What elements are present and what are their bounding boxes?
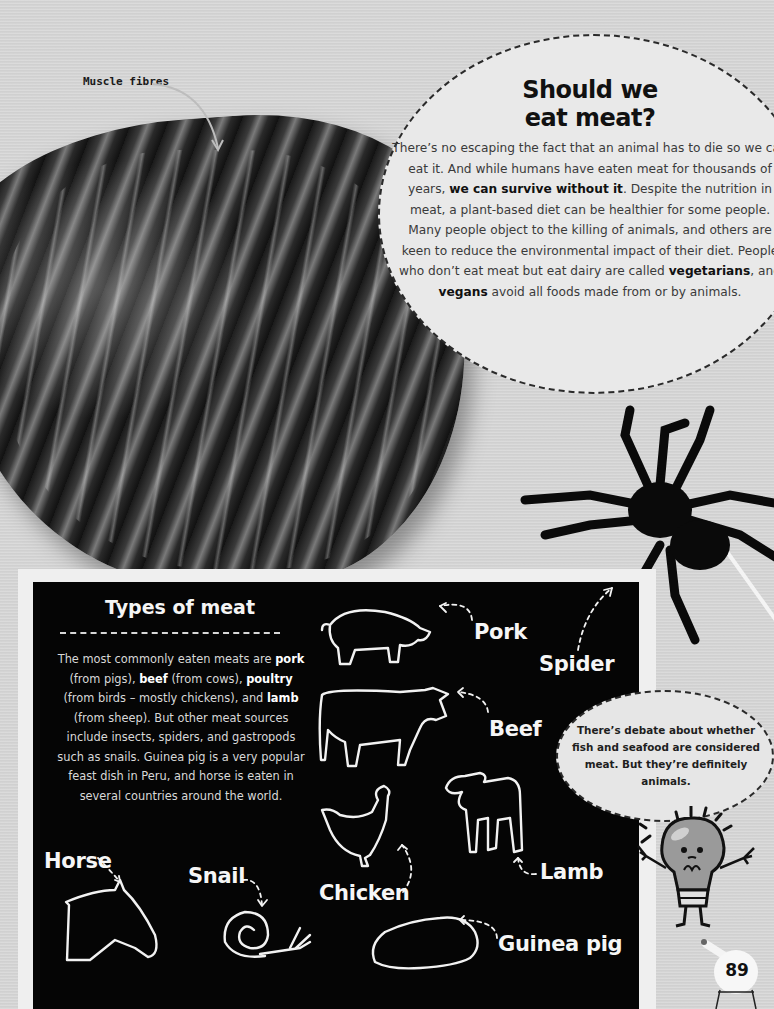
speech-bubble-text: There’s debate about whether fish and se… xyxy=(566,722,766,790)
bold-term: pork xyxy=(275,652,304,666)
text-run: avoid all foods made from or by animals. xyxy=(488,285,742,299)
bold-term: vegans xyxy=(439,285,488,299)
label-beef: Beef xyxy=(489,717,541,741)
lightbulb-mascot-icon xyxy=(636,806,766,936)
feature-body: There’s no escaping the fact that an ani… xyxy=(392,138,774,302)
bold-term: we can survive without it xyxy=(449,182,623,196)
label-spider: Spider xyxy=(539,652,614,676)
label-lamb: Lamb xyxy=(540,860,603,884)
bold-term: poultry xyxy=(246,672,292,686)
text-run: (from pigs), xyxy=(69,672,139,686)
bold-term: lamb xyxy=(267,691,299,705)
text-run: , and xyxy=(750,264,774,278)
page-number: 89 xyxy=(713,960,761,980)
feature-title-line2: eat meat? xyxy=(460,104,720,132)
feature-title: Should we eat meat? xyxy=(460,76,720,132)
label-snail: Snail xyxy=(188,864,245,888)
feature-title-line1: Should we xyxy=(460,76,720,104)
bold-term: beef xyxy=(139,672,168,686)
board-title: Types of meat xyxy=(60,596,300,618)
bold-term: vegetarians xyxy=(669,264,751,278)
text-run: (from sheep). But other meat sources inc… xyxy=(57,711,304,803)
label-chicken: Chicken xyxy=(319,881,410,905)
muscle-arrow-icon xyxy=(150,80,240,155)
text-run: (from cows), xyxy=(168,672,246,686)
label-horse: Horse xyxy=(44,849,112,873)
board-divider xyxy=(60,632,280,634)
label-pork: Pork xyxy=(474,620,527,644)
board-body: The most commonly eaten meats are pork (… xyxy=(56,650,306,806)
text-run: The most commonly eaten meats are xyxy=(58,652,275,666)
label-guinea-pig: Guinea pig xyxy=(498,932,622,956)
text-run: (from birds – mostly chickens), and xyxy=(63,691,267,705)
